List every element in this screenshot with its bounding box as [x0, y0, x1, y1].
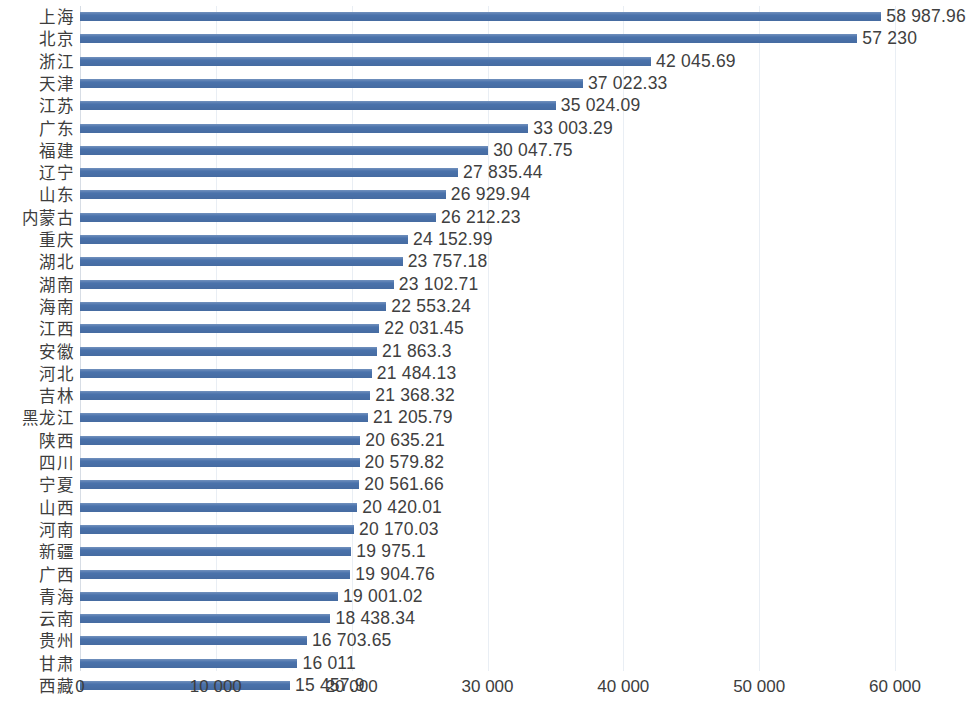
bar-row: 24 152.99 [80, 229, 963, 251]
bar-value-label: 20 170.03 [359, 518, 439, 540]
bar-row: 22 031.45 [80, 318, 963, 340]
category-label: 内蒙古 [22, 207, 75, 229]
bar[interactable] [80, 436, 360, 445]
x-tick-label: 50 000 [733, 674, 785, 700]
bar[interactable] [80, 168, 458, 177]
category-label: 陕西 [39, 430, 74, 452]
category-label: 江苏 [39, 95, 74, 117]
bar[interactable] [80, 636, 307, 645]
category-label: 河北 [39, 363, 74, 385]
category-axis: 上海北京浙江天津江苏广东福建辽宁山东内蒙古重庆湖北湖南海南江西安徽河北吉林黑龙江… [0, 6, 74, 671]
bar[interactable] [80, 413, 368, 422]
bar[interactable] [80, 34, 857, 43]
bar[interactable] [80, 235, 408, 244]
category-label: 福建 [39, 140, 74, 162]
category-label: 安徽 [39, 341, 74, 363]
bar[interactable] [80, 570, 350, 579]
category-label: 四川 [39, 452, 74, 474]
bar[interactable] [80, 79, 583, 88]
bar-row: 18 438.34 [80, 608, 963, 630]
bar-row: 26 212.23 [80, 207, 963, 229]
bar-value-label: 19 001.02 [343, 585, 423, 607]
bar[interactable] [80, 614, 330, 623]
bar-row: 20 579.82 [80, 452, 963, 474]
bar-row: 21 368.32 [80, 385, 963, 407]
x-tick-label: 20 000 [326, 674, 378, 700]
bar[interactable] [80, 503, 357, 512]
category-label: 广东 [39, 118, 74, 140]
bar-value-label: 20 420.01 [362, 496, 442, 518]
bar[interactable] [80, 347, 377, 356]
bar-row: 20 420.01 [80, 497, 963, 519]
bar[interactable] [80, 190, 446, 199]
bar-value-label: 23 102.71 [399, 273, 479, 295]
bar-row: 19 001.02 [80, 586, 963, 608]
x-tick-label: 30 000 [462, 674, 514, 700]
bar[interactable] [80, 302, 386, 311]
bar-row: 57 230 [80, 28, 963, 50]
bar[interactable] [80, 391, 370, 400]
category-label: 云南 [39, 608, 74, 630]
bar[interactable] [80, 592, 338, 601]
category-label: 海南 [39, 296, 74, 318]
bar-value-label: 33 003.29 [533, 117, 613, 139]
bar-row: 21 205.79 [80, 407, 963, 429]
bar-row: 22 553.24 [80, 296, 963, 318]
bar-value-label: 22 553.24 [391, 295, 471, 317]
bar-value-label: 27 835.44 [463, 161, 543, 183]
category-label: 湖南 [39, 274, 74, 296]
x-tick-label: 10 000 [190, 674, 242, 700]
category-label: 广西 [39, 564, 74, 586]
bar-row: 19 975.1 [80, 541, 963, 563]
bar[interactable] [80, 458, 360, 467]
bar[interactable] [80, 57, 651, 66]
bar-value-label: 37 022.33 [588, 72, 668, 94]
bar[interactable] [80, 547, 351, 556]
category-label: 吉林 [39, 385, 74, 407]
bar-row: 20 561.66 [80, 474, 963, 496]
bar[interactable] [80, 101, 556, 110]
bar[interactable] [80, 146, 488, 155]
bar-value-label: 21 484.13 [377, 362, 457, 384]
bar[interactable] [80, 324, 379, 333]
bar-value-label: 20 561.66 [364, 473, 444, 495]
bar-row: 30 047.75 [80, 140, 963, 162]
category-label: 江西 [39, 318, 74, 340]
bar[interactable] [80, 280, 394, 289]
bar-value-label: 26 929.94 [451, 183, 531, 205]
bar[interactable] [80, 525, 354, 534]
bar-row: 42 045.69 [80, 51, 963, 73]
bar-value-label: 58 987.96 [886, 5, 966, 27]
bar-value-label: 22 031.45 [384, 317, 464, 339]
bar-value-label: 42 045.69 [656, 50, 736, 72]
category-label: 山东 [39, 184, 74, 206]
category-label: 上海 [39, 6, 74, 28]
bar-value-label: 35 024.09 [561, 94, 641, 116]
bar-value-label: 19 904.76 [355, 563, 435, 585]
x-tick-label: 0 [75, 674, 84, 700]
bar[interactable] [80, 124, 528, 133]
bar-row: 21 863.3 [80, 341, 963, 363]
bar-value-label: 19 975.1 [356, 540, 426, 562]
bar-value-label: 21 205.79 [373, 406, 453, 428]
bar-row: 21 484.13 [80, 363, 963, 385]
bar-value-label: 24 152.99 [413, 228, 493, 250]
bar[interactable] [80, 480, 359, 489]
bar[interactable] [80, 659, 297, 668]
bar[interactable] [80, 12, 881, 21]
bar[interactable] [80, 257, 403, 266]
category-label: 黑龙江 [22, 407, 75, 429]
bar-row: 23 757.18 [80, 251, 963, 273]
category-label: 甘肃 [39, 653, 74, 675]
bar[interactable] [80, 213, 436, 222]
bar-value-label: 16 011 [302, 652, 355, 674]
bar-value-label: 57 230 [862, 27, 917, 49]
bar-row: 35 024.09 [80, 95, 963, 117]
category-label: 贵州 [39, 630, 74, 652]
category-label: 新疆 [39, 541, 74, 563]
bar[interactable] [80, 369, 372, 378]
category-label: 天津 [39, 73, 74, 95]
bar-row: 19 904.76 [80, 564, 963, 586]
x-tick-label: 40 000 [597, 674, 649, 700]
bar-row: 37 022.33 [80, 73, 963, 95]
